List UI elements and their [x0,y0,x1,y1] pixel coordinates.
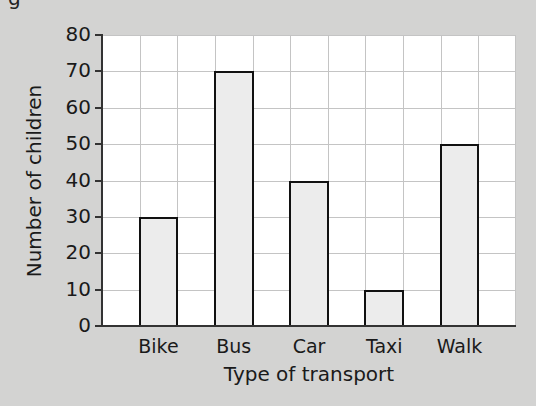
y-tick-label: 0 [51,315,91,335]
x-axis [96,325,516,327]
y-tick-mark [95,143,101,145]
y-tick-label: 20 [51,242,91,262]
y-tick-label: 40 [51,170,91,190]
bar-car [289,181,329,327]
y-tick-mark [95,70,101,72]
clipped-heading-fragment: g [8,0,21,10]
gridline-horizontal [102,35,516,36]
y-tick-mark [95,252,101,254]
y-tick-label: 30 [51,206,91,226]
y-axis [101,34,103,327]
gridline-horizontal [102,108,516,109]
x-tick-label-walk: Walk [420,335,500,357]
y-tick-mark [95,34,101,36]
bar-walk [440,144,480,326]
y-tick-label: 10 [51,279,91,299]
y-tick-label: 60 [51,97,91,117]
x-tick-label-car: Car [269,335,349,357]
plot-area [102,35,516,326]
y-tick-mark [95,107,101,109]
y-tick-mark [95,289,101,291]
bar-taxi [364,290,404,326]
x-tick-label-bike: Bike [118,335,198,357]
y-tick-label: 50 [51,133,91,153]
y-tick-mark [95,180,101,182]
bar-bike [139,217,179,326]
y-tick-mark [95,325,101,327]
gridline-horizontal [102,71,516,72]
y-tick-label: 80 [51,24,91,44]
x-tick-label-bus: Bus [194,335,274,357]
x-tick-label-taxi: Taxi [344,335,424,357]
x-axis-title: Type of transport [102,362,516,386]
gridline-vertical [515,35,516,326]
y-tick-mark [95,216,101,218]
y-tick-label: 70 [51,60,91,80]
y-axis-title: Number of children [22,85,46,278]
bar-bus [214,71,254,326]
